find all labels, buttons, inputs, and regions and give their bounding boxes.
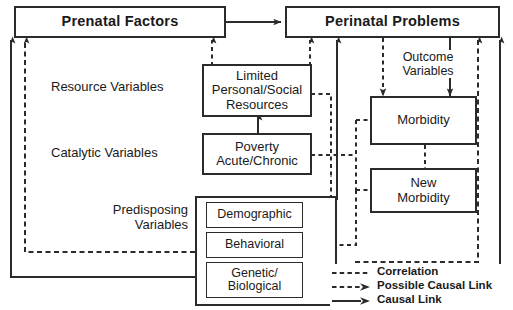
box-prenatal-factors-label: Prenatal Factors bbox=[62, 14, 179, 30]
legend-item-correlation: Correlation bbox=[330, 264, 508, 278]
box-limited-resources-line3: Resources bbox=[212, 98, 302, 112]
box-poverty-line1: Poverty bbox=[216, 140, 298, 154]
legend: Correlation Possible Causal Link Causal … bbox=[330, 264, 508, 306]
box-poverty-line2: Acute/Chronic bbox=[216, 154, 298, 168]
box-poverty[interactable]: Poverty Acute/Chronic bbox=[202, 133, 312, 175]
label-predisposing-line1: Predisposing bbox=[90, 203, 188, 218]
label-outcome-variables: Outcome Variables bbox=[392, 50, 464, 78]
box-behavioral[interactable]: Behavioral bbox=[206, 232, 303, 258]
legend-label-possible-causal-link: Possible Causal Link bbox=[377, 279, 492, 291]
legend-item-possible-causal-link: Possible Causal Link bbox=[330, 278, 508, 292]
box-behavioral-label: Behavioral bbox=[225, 238, 284, 252]
box-genetic-biological-line2: Biological bbox=[228, 280, 282, 294]
label-outcome-line1: Outcome bbox=[392, 50, 464, 64]
label-predisposing-variables: Predisposing Variables bbox=[90, 203, 188, 232]
correlation-bus-resources bbox=[311, 94, 331, 176]
legend-arrow-solid-icon bbox=[330, 293, 374, 305]
box-genetic-biological[interactable]: Genetic/ Biological bbox=[206, 262, 303, 298]
box-perinatal-problems[interactable]: Perinatal Problems bbox=[285, 6, 500, 38]
label-outcome-line2: Variables bbox=[392, 64, 464, 78]
label-predisposing-line2: Variables bbox=[90, 218, 188, 233]
box-limited-resources-line1: Limited bbox=[212, 69, 302, 83]
box-new-morbidity-line2: Morbidity bbox=[397, 191, 450, 205]
label-catalytic-variables: Catalytic Variables bbox=[51, 146, 158, 161]
box-new-morbidity[interactable]: New Morbidity bbox=[370, 168, 477, 213]
legend-line-dashed-icon bbox=[330, 265, 374, 277]
box-demographic[interactable]: Demographic bbox=[206, 202, 303, 228]
legend-label-causal-link: Causal Link bbox=[377, 293, 442, 305]
box-genetic-biological-line1: Genetic/ bbox=[228, 267, 282, 281]
legend-item-causal-link: Causal Link bbox=[330, 292, 508, 306]
box-demographic-label: Demographic bbox=[217, 208, 291, 222]
box-perinatal-problems-label: Perinatal Problems bbox=[325, 14, 460, 30]
legend-label-correlation: Correlation bbox=[377, 265, 438, 277]
box-morbidity[interactable]: Morbidity bbox=[370, 96, 477, 145]
legend-arrow-dashed-icon bbox=[330, 279, 374, 291]
box-limited-resources-line2: Personal/Social bbox=[212, 83, 302, 97]
diagram-canvas: Prenatal Factors Perinatal Problems Limi… bbox=[0, 0, 513, 310]
label-resource-variables: Resource Variables bbox=[51, 80, 163, 95]
box-new-morbidity-line1: New bbox=[397, 176, 450, 190]
box-limited-resources[interactable]: Limited Personal/Social Resources bbox=[202, 64, 312, 117]
box-morbidity-label: Morbidity bbox=[397, 113, 450, 127]
box-prenatal-factors[interactable]: Prenatal Factors bbox=[14, 6, 226, 38]
